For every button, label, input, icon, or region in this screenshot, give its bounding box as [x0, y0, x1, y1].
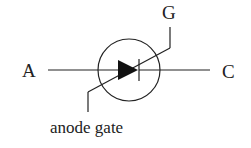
diode-triangle-icon [118, 60, 138, 80]
anode-label: A [22, 60, 36, 81]
thyristor-diagram: A C G anode gate [0, 0, 251, 148]
cathode-label: C [222, 61, 235, 82]
anode-gate-label: anode gate [50, 118, 123, 137]
gate-label: G [162, 2, 176, 23]
